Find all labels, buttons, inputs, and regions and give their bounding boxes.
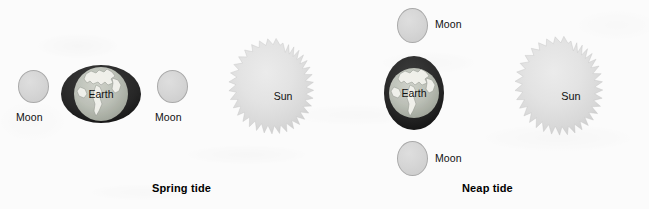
spring-moon-right — [157, 70, 188, 103]
spring-moon-left — [18, 70, 49, 103]
sun-graphic: Sun — [222, 40, 344, 156]
spring-tide-caption: Spring tide — [152, 182, 211, 194]
moon-icon — [397, 141, 428, 176]
spring-sun: Sun — [222, 40, 344, 156]
spring-moon-left-label: Moon — [16, 111, 43, 123]
neap-sun: Sun — [507, 38, 635, 158]
neap-moon-bottom-label: Moon — [435, 152, 462, 164]
earth-label: Earth — [88, 88, 113, 100]
moon-icon — [18, 70, 49, 103]
tides-diagram: Moon — [0, 0, 649, 209]
earth-label: Earth — [401, 87, 426, 99]
sun-graphic: Sun — [507, 38, 635, 158]
earth-graphic: Earth — [60, 54, 142, 134]
neap-moon-top — [397, 8, 428, 43]
neap-tide-caption: Neap tide — [462, 182, 513, 194]
spring-tide-panel: Moon — [0, 0, 345, 209]
sun-corona — [515, 36, 603, 135]
neap-tide-panel: Moon — [345, 0, 649, 209]
spring-earth: Earth — [60, 54, 142, 134]
neap-moon-bottom — [397, 141, 428, 176]
sun-label: Sun — [561, 90, 580, 102]
spring-moon-right-label: Moon — [155, 111, 182, 123]
neap-moon-top-label: Moon — [435, 18, 462, 30]
sun-label: Sun — [274, 90, 293, 102]
moon-icon — [157, 70, 188, 103]
earth-graphic: Earth — [383, 55, 445, 131]
moon-icon — [397, 8, 428, 43]
sun-corona — [229, 38, 314, 133]
neap-earth: Earth — [383, 55, 445, 131]
